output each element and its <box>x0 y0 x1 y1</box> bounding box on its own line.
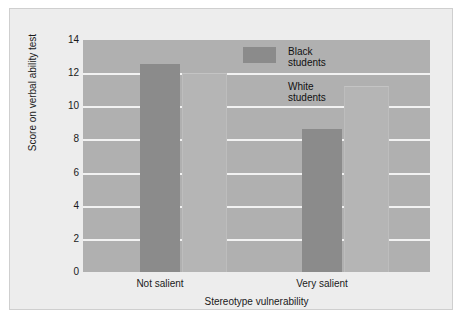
y-tick-14: 14 <box>39 35 79 45</box>
bar-black-students-very-salient <box>302 129 342 272</box>
chart-panel: 0 2 4 6 8 10 12 14 Score on verbal abili… <box>9 8 453 310</box>
legend-swatch-black-students <box>243 47 276 63</box>
bar-white-students-very-salient <box>344 86 389 272</box>
y-tick-4: 4 <box>39 201 79 211</box>
bar-black-students-not-salient <box>140 64 180 272</box>
plot-area: Black students White students <box>83 40 430 272</box>
x-tick-very-salient: Very salient <box>296 278 348 289</box>
x-tick-not-salient: Not salient <box>136 278 183 289</box>
y-axis-label: Score on verbal ability test <box>27 8 38 178</box>
legend-label-black-students: Black students <box>288 46 326 68</box>
bar-white-students-not-salient <box>182 73 227 272</box>
y-tick-12: 12 <box>39 68 79 78</box>
y-tick-6: 6 <box>39 168 79 178</box>
y-tick-10: 10 <box>39 101 79 111</box>
legend-label-white-students: White students <box>288 81 326 103</box>
chart-figure: 0 2 4 6 8 10 12 14 Score on verbal abili… <box>0 0 462 319</box>
y-tick-2: 2 <box>39 234 79 244</box>
x-axis-label: Stereotype vulnerability <box>83 296 430 307</box>
y-axis-ticks: 0 2 4 6 8 10 12 14 <box>35 40 79 272</box>
y-tick-0: 0 <box>39 267 79 277</box>
gridline-12 <box>83 73 430 75</box>
y-tick-8: 8 <box>39 134 79 144</box>
